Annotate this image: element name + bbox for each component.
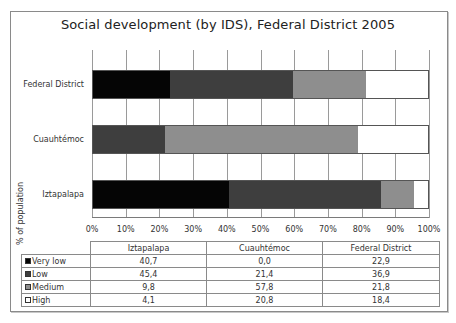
bar-segment-low <box>170 71 294 98</box>
table-row: High4,120,818,4 <box>22 294 440 307</box>
legend-label: Medium <box>22 281 91 294</box>
x-tick-label: 100% <box>418 225 441 234</box>
category-label: Iztapalapa <box>42 190 84 199</box>
plot-area <box>92 50 429 218</box>
table-header: Federal District <box>323 242 440 255</box>
category-label: Federal District <box>23 80 84 89</box>
table-cell: 40,7 <box>91 255 207 268</box>
bar-segment-medium <box>293 71 366 98</box>
bar-federal-district <box>92 70 429 99</box>
bar-segment-medium <box>381 181 414 208</box>
table-cell: 4,1 <box>91 294 207 307</box>
x-tick-label: 80% <box>353 225 371 234</box>
x-tick-label: 20% <box>151 225 169 234</box>
legend-swatch-icon <box>25 271 31 277</box>
table-header: Cuauhtémoc <box>207 242 323 255</box>
table-cell: 21,4 <box>207 268 323 281</box>
legend-label: High <box>22 294 91 307</box>
x-tick-label: 60% <box>285 225 303 234</box>
gridline <box>429 50 430 218</box>
x-tick-label: 40% <box>218 225 236 234</box>
x-tick-label: 70% <box>319 225 337 234</box>
legend-label: Very low <box>22 255 91 268</box>
bar-segment-very-low <box>93 71 170 98</box>
legend-label: Low <box>22 268 91 281</box>
bar-segment-high <box>414 181 428 208</box>
table-cell: 18,4 <box>323 294 440 307</box>
table-header: Iztapalapa <box>91 242 207 255</box>
table-cell: 22,9 <box>323 255 440 268</box>
x-tick-label: 90% <box>386 225 404 234</box>
table-cell: 57,8 <box>207 281 323 294</box>
x-tick-label: 10% <box>117 225 135 234</box>
table-cell: 36,9 <box>323 268 440 281</box>
table-cell: 9,8 <box>91 281 207 294</box>
bar-segment-high <box>358 126 428 153</box>
x-tick-label: 0% <box>86 225 99 234</box>
x-tick-label: 30% <box>184 225 202 234</box>
table-row: Low45,421,436,9 <box>22 268 440 281</box>
bar-segment-medium <box>165 126 359 153</box>
bar-segment-high <box>366 71 428 98</box>
table-cell: 20,8 <box>207 294 323 307</box>
table-cell: 0,0 <box>207 255 323 268</box>
table-row: Very low40,70,022,9 <box>22 255 440 268</box>
chart-title: Social development (by IDS), Federal Dis… <box>0 17 456 32</box>
table-row: Medium9,857,821,8 <box>22 281 440 294</box>
table-corner <box>22 242 91 255</box>
legend-swatch-icon <box>25 258 31 264</box>
bar-segment-low <box>229 181 381 208</box>
x-axis-line <box>92 217 429 218</box>
table-cell: 45,4 <box>91 268 207 281</box>
category-label: Cuauhtémoc <box>33 135 84 144</box>
bar-iztapalapa <box>92 180 429 209</box>
x-tick-label: 50% <box>252 225 270 234</box>
bar-cuauht-moc <box>92 125 429 154</box>
y-axis-label: % of population <box>16 182 25 245</box>
legend-swatch-icon <box>25 297 31 303</box>
bar-segment-very-low <box>93 181 229 208</box>
table-cell: 21,8 <box>323 281 440 294</box>
legend-swatch-icon <box>25 284 31 290</box>
data-table: Iztapalapa Cuauhtémoc Federal District V… <box>21 241 440 307</box>
bar-segment-low <box>93 126 165 153</box>
